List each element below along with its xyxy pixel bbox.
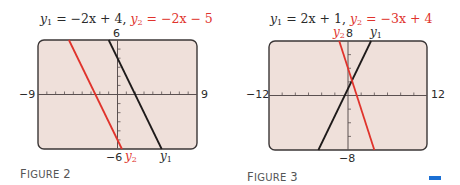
graphing-calculator-screens <box>0 0 460 185</box>
page-marker <box>429 176 441 180</box>
